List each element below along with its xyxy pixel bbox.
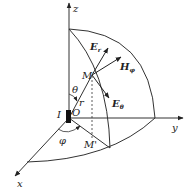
- current-label: I: [56, 109, 62, 120]
- point-m-prime-label: M': [83, 139, 97, 150]
- theta-arc-icon: [69, 94, 77, 101]
- svg-text:Eθ: Eθ: [111, 98, 124, 110]
- h-phi-label: Hφ: [119, 61, 135, 74]
- phi-label: φ: [59, 135, 66, 146]
- x-axis: [15, 118, 69, 176]
- radius-label: r: [79, 97, 85, 108]
- h-phi-arrow: [92, 57, 121, 75]
- x-axis-label: x: [17, 178, 23, 189]
- svg-text:Hφ: Hφ: [119, 61, 135, 74]
- e-r-label: Er: [89, 41, 102, 53]
- svg-text:Er: Er: [89, 41, 102, 53]
- origin-label: O: [72, 107, 80, 118]
- e-theta-label: Eθ: [111, 98, 124, 110]
- e-theta-arrow: [92, 75, 109, 98]
- z-axis-label: z: [72, 3, 79, 14]
- theta-label: θ: [72, 84, 78, 95]
- point-m-label: M: [81, 70, 93, 81]
- dipole-source-icon: [66, 110, 71, 123]
- y-axis-label: y: [171, 122, 178, 133]
- dipole-field-diagram: z y x M O M' I θ φ r Er Hφ Eθ: [0, 0, 196, 190]
